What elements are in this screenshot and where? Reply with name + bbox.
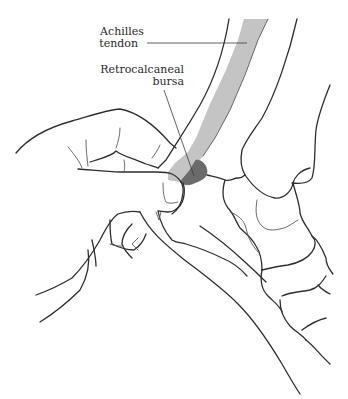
retrocalcaneal-bursa-label: Retrocalcaneal bursa xyxy=(100,64,184,88)
finger-knuckle-2 xyxy=(68,147,82,168)
finger-knuckle-4 xyxy=(152,145,160,158)
achilles-label-line2: tendon xyxy=(96,38,138,50)
navicular-outline xyxy=(293,183,333,274)
finger-knuckle-5 xyxy=(124,160,125,172)
finger-knuckle-1 xyxy=(86,140,88,166)
metatarsal-lower-branch xyxy=(302,318,326,330)
cuboid-outline xyxy=(262,236,315,270)
bursa-label-line2: bursa xyxy=(100,76,184,88)
metatarsal-joint-2 xyxy=(318,285,330,294)
foot-sole-lower xyxy=(200,226,266,282)
thumb-nail xyxy=(163,183,178,203)
hand-dorsum xyxy=(16,109,176,153)
ankle-diagram xyxy=(0,0,348,399)
calcaneus-top xyxy=(207,175,245,181)
cuneiform-outline xyxy=(261,270,282,312)
calcaneus-posterior xyxy=(223,180,262,270)
lower-hand-outline-2 xyxy=(40,250,89,322)
metatarsal-lower xyxy=(280,300,306,340)
curled-finger-2 xyxy=(122,224,132,258)
leg-anterior-outline xyxy=(292,85,330,183)
achilles-tendon-shape xyxy=(168,19,268,182)
heel-contour xyxy=(158,183,247,276)
finger-crease-lower xyxy=(110,244,122,246)
index-finger xyxy=(78,169,183,214)
forefoot-line xyxy=(306,340,330,364)
finger-knuckle-3 xyxy=(116,128,120,148)
talus-inner xyxy=(256,200,298,230)
achilles-tendon-label: Achilles tendon xyxy=(96,26,144,50)
finger-crease-1 xyxy=(90,151,158,168)
